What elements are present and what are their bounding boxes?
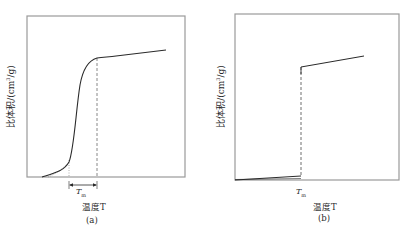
plot-frame-b: [235, 14, 399, 180]
ylabel-main: 比体积/(cm: [216, 81, 226, 128]
plot-frame-a: [27, 16, 185, 177]
tm-sub: m: [301, 192, 306, 198]
y-axis-label-b: 比体积/(cm3/g): [214, 57, 227, 137]
arrow-left-head-icon: [69, 183, 73, 187]
chart-a-plot: [0, 0, 204, 234]
tm-sub: m: [81, 192, 86, 198]
chart-panel-a: 比体积/(cm3/g) Tm 温度T (a): [0, 0, 204, 234]
liquid-phase-line: [301, 56, 364, 67]
y-axis-label-a: 比体积/(cm3/g): [4, 57, 17, 137]
tm-label-b: Tm: [296, 187, 306, 198]
caption-b: (b): [318, 213, 330, 223]
chart-panel-b: 比体积/(cm3/g) Tm 温度T (b): [204, 0, 407, 234]
ylabel-sup: 3: [215, 78, 221, 81]
ylabel-sup: 3: [5, 78, 11, 81]
x-axis-label-b: 温度T: [313, 200, 337, 212]
x-axis-label-a: 温度T: [82, 200, 106, 212]
tm-label-a: Tm: [76, 187, 86, 198]
caption-a: (a): [86, 215, 98, 225]
onset-extrapolation-dotted: [48, 162, 69, 177]
arrow-right-head-icon: [93, 183, 97, 187]
ylabel-main: 比体积/(cm: [6, 81, 16, 128]
ylabel-tail: /g): [216, 65, 226, 77]
specific-volume-curve-a: [42, 50, 166, 177]
chart-b-plot: [204, 0, 407, 234]
ylabel-tail: /g): [6, 65, 16, 77]
